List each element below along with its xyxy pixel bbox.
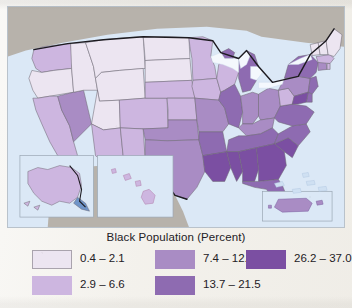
state-NE (145, 80, 195, 98)
legend-swatch-class-2 (32, 276, 72, 295)
legend-label-class-1: 0.4 – 2.1 (80, 252, 125, 264)
state-WY (95, 68, 145, 101)
alaska-inset (20, 156, 94, 217)
state-ND (143, 37, 190, 61)
state-CT (318, 62, 327, 70)
legend-item-class-1: 0.4 – 2.1 (32, 250, 162, 270)
state-NM (120, 128, 145, 160)
legend-title: Black Population (Percent) (0, 231, 352, 243)
legend-swatch-class-5 (246, 250, 286, 269)
map-legend: Black Population (Percent) 0.4 – 2.1 7.4… (0, 228, 352, 308)
state-AR (199, 132, 227, 156)
us-choropleth-map (8, 7, 344, 227)
legend-row-1: 0.4 – 2.1 7.4 – 12.4 26.2 – 37.0 (0, 250, 352, 270)
hawaii-inset (97, 156, 173, 217)
puerto-rico-inset (262, 191, 332, 221)
legend-item-class-5: 26.2 – 37.0 (246, 250, 352, 270)
legend-item-class-4: 13.7 – 21.5 (155, 276, 285, 296)
state-SD (145, 59, 192, 83)
state-KS (167, 98, 197, 120)
legend-row-2: 2.9 – 6.6 13.7 – 21.5 (0, 276, 352, 296)
legend-swatch-class-3 (155, 250, 195, 269)
state-IA (192, 78, 221, 100)
legend-label-class-2: 2.9 – 6.6 (80, 278, 125, 290)
legend-label-class-4: 13.7 – 21.5 (203, 278, 261, 290)
map-panel (7, 6, 345, 228)
state-CO (119, 98, 168, 129)
legend-swatch-class-4 (155, 276, 195, 295)
legend-item-class-2: 2.9 – 6.6 (32, 276, 162, 296)
legend-label-class-5: 26.2 – 37.0 (294, 252, 352, 264)
legend-swatch-class-1 (32, 250, 72, 269)
state-IN (241, 92, 259, 124)
state-RI (327, 63, 330, 69)
